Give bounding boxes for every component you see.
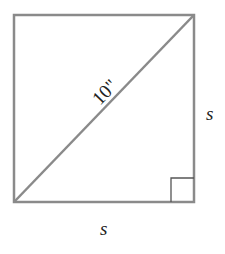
square-diagram: 10" s s (0, 0, 225, 254)
diagonal-label: 10" (88, 75, 122, 109)
bottom-side-label: s (100, 218, 107, 239)
right-angle-marker (171, 178, 194, 202)
right-side-label: s (206, 103, 213, 124)
diagonal-line (15, 16, 193, 201)
